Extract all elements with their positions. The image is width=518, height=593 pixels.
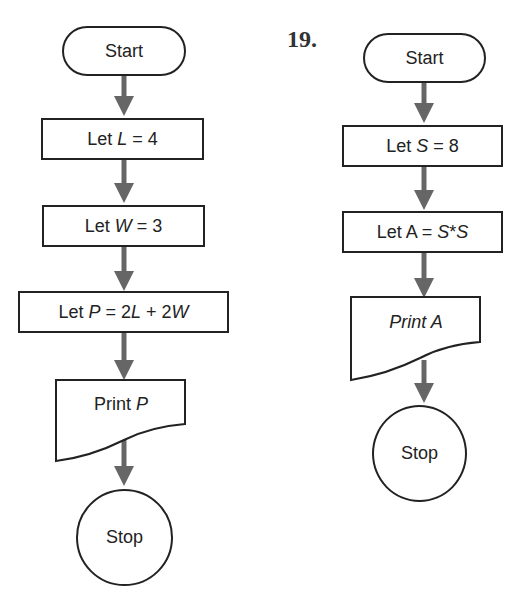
start-label: Start	[105, 41, 143, 62]
stop-circle-left: Stop	[76, 489, 173, 586]
let-a-label: Let A = S*S	[377, 222, 469, 243]
let-l-label: Let L = 4	[87, 129, 158, 150]
let-w-box: Let W = 3	[42, 205, 205, 247]
print-p-shape	[56, 380, 185, 461]
stop-label: Stop	[106, 527, 143, 548]
let-l-box: Let L = 4	[41, 118, 204, 160]
problem-number: 19.	[287, 26, 317, 53]
print-p-label: Print P	[56, 394, 186, 415]
print-a-shape	[351, 297, 480, 380]
let-p-box: Let P = 2L + 2W	[18, 291, 229, 333]
start-terminal-left: Start	[62, 26, 186, 76]
let-w-label: Let W = 3	[85, 216, 163, 237]
let-a-box: Let A = S*S	[342, 211, 503, 253]
stop-circle-right: Stop	[372, 405, 467, 502]
let-s-label: Let S = 8	[386, 136, 459, 157]
stop-label: Stop	[401, 443, 438, 464]
start-label: Start	[405, 48, 443, 69]
let-p-label: Let P = 2L + 2W	[58, 302, 188, 323]
let-s-box: Let S = 8	[342, 125, 503, 167]
print-a-label: Print A	[351, 312, 481, 333]
start-terminal-right: Start	[363, 33, 486, 83]
